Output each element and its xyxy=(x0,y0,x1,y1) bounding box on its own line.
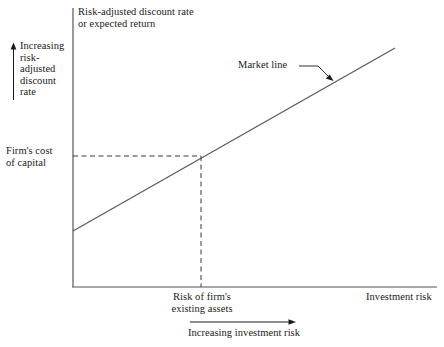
increasing-discount-rate-arrow-icon xyxy=(11,43,17,101)
market-line xyxy=(73,48,395,231)
y-axis-tick-label-cost-of-capital: Firm's cost of capital xyxy=(6,145,70,168)
x-axis-title: Investment risk xyxy=(366,291,432,303)
market-line-figure: Risk-adjusted discount rate or expected … xyxy=(0,0,444,347)
increasing-investment-risk-arrow-icon xyxy=(190,319,296,325)
y-axis-direction-label: Increasing risk- adjusted discount rate xyxy=(20,40,74,98)
x-axis-direction-label: Increasing investment risk xyxy=(183,327,305,339)
y-axis-title: Risk-adjusted discount rate or expected … xyxy=(78,6,238,29)
market-line-annotation-label: Market line xyxy=(238,59,287,71)
x-axis-tick-label-existing-assets: Risk of firm's existing assets xyxy=(150,291,254,314)
market-line-callout-arrow-icon xyxy=(299,66,334,81)
